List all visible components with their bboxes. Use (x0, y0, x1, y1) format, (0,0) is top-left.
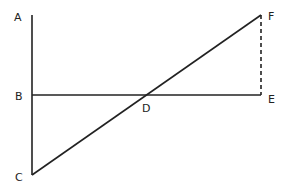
label-b: B (15, 90, 23, 103)
geometry-diagram: A B C D E F (0, 0, 289, 187)
label-f: F (268, 10, 274, 23)
label-a: A (14, 11, 22, 24)
label-d: D (142, 102, 150, 115)
label-c: C (15, 171, 23, 184)
label-e: E (268, 93, 275, 106)
